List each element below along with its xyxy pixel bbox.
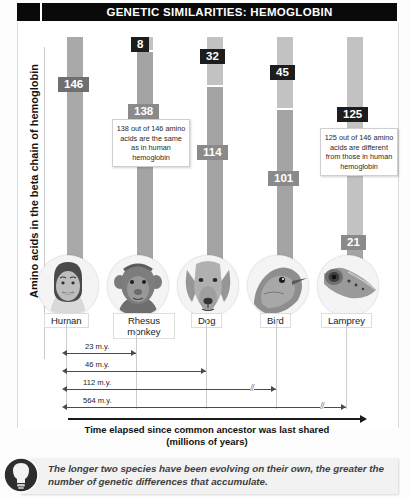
monkey-face-icon xyxy=(108,256,168,316)
timeline-caption-line1: Time elapsed since common ancestor was l… xyxy=(17,424,397,436)
timeline-label-564: 564 m.y. xyxy=(80,396,115,405)
chip-dog-different: 32 xyxy=(200,49,225,64)
timeline-dropline-monkey xyxy=(136,329,137,409)
timeline-dropline-bird xyxy=(276,319,277,409)
timeline-arrow-right-46 xyxy=(201,368,206,374)
callout-left: 138 out of 146 amino acids are the same … xyxy=(112,119,190,167)
timeline-arrow-right-112 xyxy=(271,386,276,392)
plot-area: Amino acids in the beta chain of hemoglo… xyxy=(17,23,399,428)
bird-head-icon xyxy=(248,256,308,316)
figure-genetic-similarities-hemoglobin: GENETIC SIMILARITIES: HEMOGLOBIN Amino a… xyxy=(0,0,410,498)
bar-bird-same xyxy=(277,110,293,273)
timeline-arrow-right-564 xyxy=(341,404,346,410)
chip-monkey-same: 138 xyxy=(128,104,159,119)
human-face-icon xyxy=(38,256,98,316)
callout-right: 125 out of 146 amino acids are different… xyxy=(320,128,398,176)
species-circle-human[interactable] xyxy=(37,255,99,317)
timeline-axis xyxy=(68,418,360,420)
timeline-dropline-dog xyxy=(206,319,207,409)
timeline-axis-arrow xyxy=(360,415,367,423)
bar-human-same xyxy=(67,37,83,273)
species-circle-bird[interactable] xyxy=(247,255,309,317)
timeline-break-112: // xyxy=(250,384,254,392)
bar-dog-same xyxy=(207,87,223,273)
chip-bird-same: 101 xyxy=(268,171,299,186)
chip-dog-same: 114 xyxy=(197,145,228,160)
chip-human-same: 146 xyxy=(58,77,89,92)
timeline-caption: Time elapsed since common ancestor was l… xyxy=(17,424,397,448)
y-axis-label: Amino acids in the beta chain of hemoglo… xyxy=(26,56,42,306)
timeline-bar-46 xyxy=(66,371,206,372)
chip-lamprey-different: 125 xyxy=(337,107,368,122)
timeline-arrow-left-112 xyxy=(62,386,67,392)
species-circle-rhesus-monkey[interactable] xyxy=(107,255,169,317)
species-label-rhesus-line1: Rhesus xyxy=(128,315,160,326)
timeline-dropline-lamprey xyxy=(346,319,347,409)
lamprey-head-icon xyxy=(318,256,378,316)
timeline-caption-line2: (millions of years) xyxy=(17,436,397,448)
timeline-arrow-left-23 xyxy=(62,350,67,356)
chip-lamprey-same: 21 xyxy=(341,235,366,250)
chip-bird-different: 45 xyxy=(270,65,295,80)
species-circle-dog[interactable] xyxy=(177,255,239,317)
timeline-label-112: 112 m.y. xyxy=(80,378,114,387)
species-label-rhesus-monkey: Rhesus monkey xyxy=(113,313,175,339)
timeline-label-46: 46 m.y. xyxy=(82,360,112,369)
tip-text: The longer two species have been evolvin… xyxy=(48,462,393,488)
timeline-label-23: 23 m.y. xyxy=(82,342,112,351)
timeline-bar-564 xyxy=(66,407,346,408)
chip-monkey-different: 8 xyxy=(131,37,149,52)
lightbulb-icon xyxy=(2,456,40,494)
species-circle-lamprey[interactable] xyxy=(317,255,379,317)
timeline-bar-23 xyxy=(66,353,136,354)
timeline-arrow-right-23 xyxy=(131,350,136,356)
timeline-bar-112 xyxy=(66,389,276,390)
page-title: GENETIC SIMILARITIES: HEMOGLOBIN xyxy=(42,3,397,21)
timeline-arrow-left-564 xyxy=(62,404,67,410)
timeline-dropline-human xyxy=(66,319,67,409)
timeline-break-564: // xyxy=(320,402,324,410)
dog-face-icon xyxy=(178,256,238,316)
species-label-rhesus-line2: monkey xyxy=(127,326,160,337)
timeline-arrow-left-46 xyxy=(62,368,67,374)
